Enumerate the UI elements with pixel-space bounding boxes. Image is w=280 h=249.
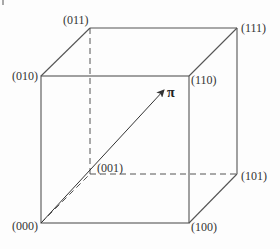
vertex-100-label: (100): [191, 220, 217, 234]
vertex-001-label: (001): [97, 161, 123, 175]
cube-svg: π (011) (010) (111) (110) (001) (101) (0…: [0, 0, 280, 249]
pi-vector-arrow: [41, 90, 164, 223]
vertex-111-label: (111): [241, 21, 266, 35]
vertex-000-label: (000): [12, 219, 38, 233]
vertex-011-label: (011): [63, 13, 89, 27]
vertex-101-label: (101): [241, 169, 267, 183]
vertex-110-label: (110): [191, 73, 217, 87]
cube-diagram: π (011) (010) (111) (110) (001) (101) (0…: [0, 0, 280, 249]
pi-label: π: [167, 85, 175, 100]
vertex-010-label: (010): [12, 69, 38, 83]
